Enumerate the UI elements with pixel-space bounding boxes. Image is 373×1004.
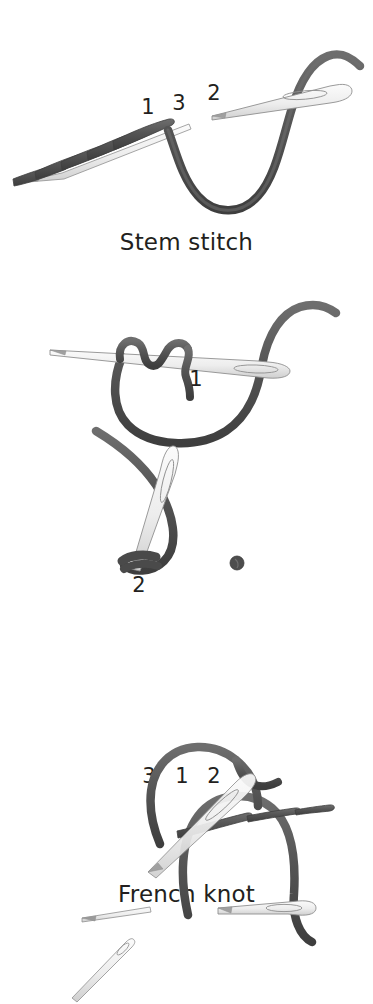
step-label-2: 2 (207, 81, 220, 105)
backstitch-illustration: 3 1 2 (0, 650, 373, 1004)
finished-knot-dot (230, 556, 244, 570)
step-label-1: 1 (189, 367, 202, 391)
caption-stem-stitch: Stem stitch (0, 229, 373, 255)
needle-crossing-arch (148, 774, 256, 878)
thread-loop-below (115, 305, 336, 443)
bare-needle-left (82, 907, 151, 922)
french-knot-illustration: 1 2 (0, 285, 373, 650)
step-label-1: 1 (175, 764, 188, 788)
horizontal-needle (50, 350, 290, 378)
thread-wrap-at-tip (122, 555, 158, 569)
figure-backstitch: 3 1 2 (0, 650, 373, 1004)
stitch-diagram-page: 1 3 2 Stem stitch (0, 0, 373, 1004)
step-label-2: 2 (132, 573, 145, 597)
step-label-2: 2 (207, 764, 220, 788)
needle-with-thread (218, 901, 316, 915)
figure-stem-stitch: 1 3 2 Stem stitch (0, 0, 373, 285)
step-label-3: 3 (172, 91, 185, 115)
small-needle-icon (72, 939, 135, 1002)
figure-french-knot: 1 2 French knot (0, 285, 373, 650)
worked-stitch-row (13, 119, 174, 186)
step-number-labels: 1 3 2 (141, 81, 220, 119)
second-stage-arch (151, 747, 279, 844)
curved-thread-loop (168, 54, 360, 210)
step-label-1: 1 (141, 95, 154, 119)
needle-with-thread (212, 84, 352, 120)
